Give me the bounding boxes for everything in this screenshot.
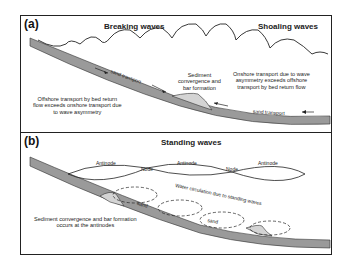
panel-a-graphics	[0, 0, 350, 273]
panel-b-id: (b)	[24, 134, 39, 148]
breaking-waves-title: Breaking waves	[104, 22, 164, 31]
offshore-caption: Offshore transport by bed return flow ex…	[33, 96, 122, 115]
shoaling-waves-title: Shoaling waves	[258, 22, 318, 31]
node-label-1: Node	[141, 166, 153, 172]
node-label-2: Node	[226, 166, 238, 172]
seabed-b	[30, 157, 330, 248]
antinode-label-3: Antinode	[258, 160, 278, 166]
standing-waves-title: Standing waves	[161, 138, 221, 147]
panel-a-id: (a)	[24, 17, 39, 31]
standing-wave-upper	[68, 165, 305, 175]
bar-caption: Sediment convergence and bar formation	[178, 72, 221, 91]
standing-caption: Sediment convergence and bar formation o…	[34, 216, 137, 229]
antinode-label-2: Antinode	[177, 160, 197, 166]
circulation-cell-2	[158, 200, 202, 216]
antinode-label-1: Antinode	[96, 160, 116, 166]
onshore-caption: Onshore transport due to wave asymmetry …	[233, 71, 310, 90]
